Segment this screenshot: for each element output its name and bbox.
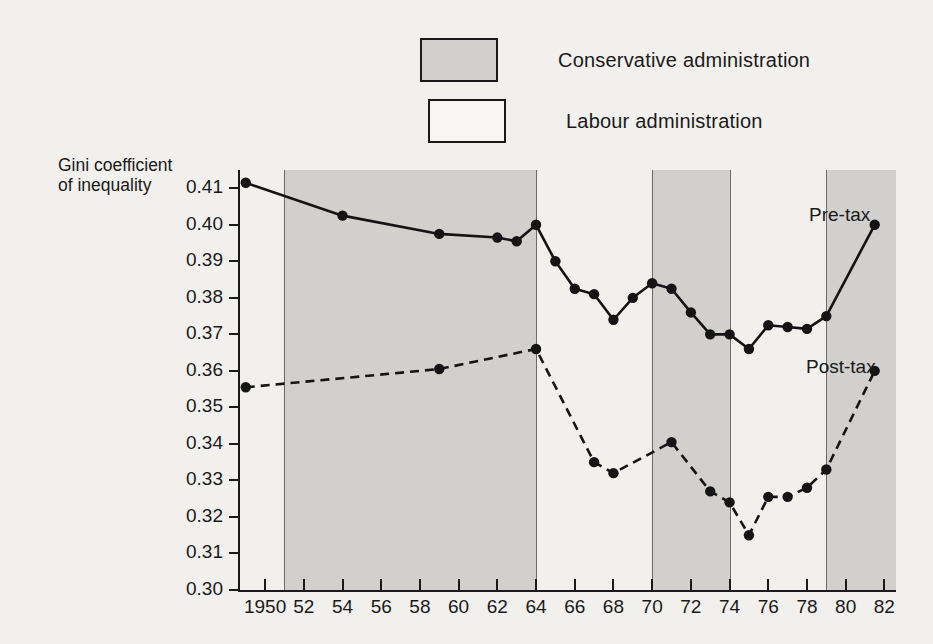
data-point [434, 229, 444, 239]
data-point [550, 256, 560, 266]
data-point [241, 382, 251, 392]
data-point [724, 329, 734, 339]
data-point [511, 236, 521, 246]
series-label-pre-tax: Pre-tax [809, 204, 870, 226]
data-point [763, 320, 773, 330]
data-point [686, 307, 696, 317]
data-point [821, 464, 831, 474]
data-point [628, 293, 638, 303]
plot-area: 0.300.310.320.330.340.350.360.370.380.39… [0, 0, 933, 644]
data-point [570, 284, 580, 294]
data-point [608, 315, 618, 325]
data-point [666, 437, 676, 447]
data-point [666, 284, 676, 294]
data-point [705, 329, 715, 339]
data-point [870, 220, 880, 230]
data-point [724, 497, 734, 507]
data-point [821, 311, 831, 321]
data-point [705, 486, 715, 496]
data-point [531, 220, 541, 230]
data-point [782, 492, 792, 502]
gini-inequality-chart-figure: Conservative administration Labour admin… [0, 0, 933, 644]
data-point [492, 232, 502, 242]
series-line-pre-tax [246, 183, 875, 349]
series-line-post-tax [246, 349, 875, 535]
data-point [744, 344, 754, 354]
data-point [241, 178, 251, 188]
data-point [589, 457, 599, 467]
data-point [647, 278, 657, 288]
data-point [337, 210, 347, 220]
data-point [608, 468, 618, 478]
data-point [744, 530, 754, 540]
data-point [802, 324, 812, 334]
data-point [763, 492, 773, 502]
data-point [802, 483, 812, 493]
data-point [434, 364, 444, 374]
data-point [531, 344, 541, 354]
series-label-post-tax: Post-tax [806, 356, 876, 378]
data-point [589, 289, 599, 299]
series-overlay [0, 0, 933, 644]
data-point [782, 322, 792, 332]
